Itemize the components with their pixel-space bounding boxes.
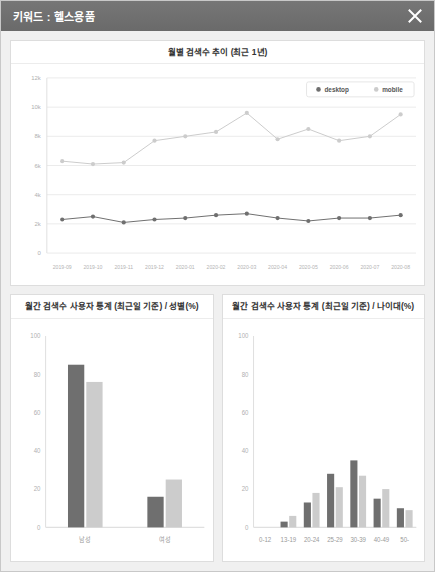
age-stats-y-tick: 60 <box>241 408 248 415</box>
legend-label-desktop[interactable]: desktop <box>324 86 348 94</box>
dashboard-content: 월별 검색수 추이 (최근 1년) 02k4k6k8k10k12k 2019-0… <box>1 31 434 571</box>
age-stats-bar-mobile[interactable] <box>358 475 365 527</box>
gender-plot-area: 020406080100 남성여성 <box>11 319 213 561</box>
age-stats-bar-desktop[interactable] <box>280 521 287 527</box>
monthly-trend-chart: 02k4k6k8k10k12k 2019-092019-102019-11201… <box>11 64 424 285</box>
trend-point-mobile[interactable] <box>91 162 95 166</box>
trend-point-desktop[interactable] <box>306 219 310 223</box>
trend-y-tick: 10k <box>31 105 41 111</box>
age-stats-bar-desktop[interactable] <box>350 460 357 527</box>
trend-y-tick: 0 <box>38 251 42 257</box>
gender-x-tick-labels: 남성여성 <box>79 536 170 544</box>
gender-stats-bar-desktop[interactable] <box>147 496 163 527</box>
gender-stats-bar-mobile[interactable] <box>86 382 102 527</box>
legend-label-mobile[interactable]: mobile <box>382 86 403 93</box>
trend-line-mobile <box>62 113 400 164</box>
window-title: 키워드 : 헬스용품 <box>13 8 404 24</box>
gender-bar-chart: 020406080100 남성여성 <box>11 319 213 561</box>
age-stats-bar-mobile[interactable] <box>405 510 412 527</box>
trend-x-tick: 2020-06 <box>330 264 349 270</box>
trend-x-tick: 2019-12 <box>145 264 164 270</box>
age-plot-area: 020406080100 0-1213-1920-2425-2930-3940-… <box>223 319 425 561</box>
trend-point-desktop[interactable] <box>91 215 95 219</box>
window-titlebar: 키워드 : 헬스용품 <box>1 1 434 31</box>
trend-point-desktop[interactable] <box>122 221 126 225</box>
age-stats-y-tick: 40 <box>241 447 248 454</box>
monthly-trend-plot-area: 02k4k6k8k10k12k 2019-092019-102019-11201… <box>11 64 424 285</box>
trend-point-desktop[interactable] <box>183 216 187 220</box>
trend-x-tick: 2020-03 <box>237 264 256 270</box>
age-stats-x-tick: 30-39 <box>350 536 366 543</box>
trend-point-mobile[interactable] <box>337 139 341 143</box>
age-stats-bar-desktop[interactable] <box>327 473 334 527</box>
age-stats-y-tick: 80 <box>241 370 248 377</box>
trend-point-mobile[interactable] <box>399 113 403 117</box>
age-stats-bar-mobile[interactable] <box>335 487 342 527</box>
age-stats-bar-desktop[interactable] <box>303 502 310 527</box>
trend-point-desktop[interactable] <box>214 213 218 217</box>
gender-stats-title: 월간 검색수 사용자 통계 (최근일 기준) / 성별(%) <box>11 295 213 318</box>
trend-point-desktop[interactable] <box>275 216 279 220</box>
gender-stats-y-tick: 80 <box>34 370 41 377</box>
trend-point-mobile[interactable] <box>152 139 156 143</box>
trend-x-tick: 2019-11 <box>114 264 133 270</box>
trend-point-desktop[interactable] <box>245 212 249 216</box>
gender-stats-card: 월간 검색수 사용자 통계 (최근일 기준) / 성별(%) 020406080… <box>10 294 214 562</box>
close-icon <box>408 9 422 23</box>
close-button[interactable] <box>404 5 426 27</box>
trend-x-tick: 2020-04 <box>268 264 287 270</box>
bottom-charts-row: 월간 검색수 사용자 통계 (최근일 기준) / 성별(%) 020406080… <box>10 294 425 562</box>
gender-stats-y-tick: 0 <box>37 523 41 530</box>
trend-point-desktop[interactable] <box>399 213 403 217</box>
trend-y-tick-labels: 02k4k6k8k10k12k <box>31 75 41 256</box>
trend-point-mobile[interactable] <box>122 161 126 165</box>
trend-point-mobile[interactable] <box>60 159 64 163</box>
age-stats-bar-desktop[interactable] <box>396 508 403 527</box>
trend-y-tick: 4k <box>35 192 41 198</box>
trend-point-mobile[interactable] <box>275 137 279 141</box>
trend-gridlines <box>47 78 416 253</box>
gender-stats-y-tick: 100 <box>30 332 41 339</box>
gender-stats-bar-desktop[interactable] <box>68 364 84 527</box>
trend-point-mobile[interactable] <box>183 135 187 139</box>
trend-x-tick: 2019-10 <box>84 264 103 270</box>
age-stats-x-tick: 50- <box>400 536 409 543</box>
trend-point-mobile[interactable] <box>368 135 372 139</box>
trend-y-tick: 2k <box>35 221 41 227</box>
gender-stats-y-tick: 20 <box>34 485 41 492</box>
age-stats-y-tick: 20 <box>241 485 248 492</box>
age-stats-bar-desktop[interactable] <box>373 498 380 527</box>
trend-x-tick: 2020-05 <box>299 264 318 270</box>
trend-x-tick: 2020-07 <box>360 264 379 270</box>
trend-point-mobile[interactable] <box>306 127 310 131</box>
monthly-trend-card: 월별 검색수 추이 (최근 1년) 02k4k6k8k10k12k 2019-0… <box>10 40 425 286</box>
age-stats-bar-mobile[interactable] <box>289 515 296 526</box>
age-stats-y-tick: 100 <box>238 332 249 339</box>
age-stats-title: 월간 검색수 사용자 통계 (최근일 기준) / 나이대(%) <box>223 295 425 318</box>
gender-stats-x-tick: 여성 <box>159 536 171 544</box>
trend-legend[interactable]: desktopmobile <box>307 82 414 97</box>
trend-point-mobile[interactable] <box>245 111 249 115</box>
trend-point-mobile[interactable] <box>214 130 218 134</box>
trend-point-desktop[interactable] <box>60 218 64 222</box>
trend-x-tick: 2020-08 <box>391 264 410 270</box>
trend-line-desktop <box>62 214 400 223</box>
gender-stats-bar-mobile[interactable] <box>166 479 182 527</box>
trend-x-tick: 2020-01 <box>176 264 195 270</box>
legend-marker-desktop <box>316 87 321 92</box>
trend-point-desktop[interactable] <box>152 218 156 222</box>
age-x-tick-labels: 0-1213-1920-2425-2930-3940-4950- <box>259 536 409 543</box>
age-stats-x-tick: 13-19 <box>280 536 296 543</box>
age-stats-x-tick: 0-12 <box>259 536 272 543</box>
trend-point-desktop[interactable] <box>368 216 372 220</box>
age-stats-bar-mobile[interactable] <box>382 489 389 527</box>
age-stats-bar-mobile[interactable] <box>312 493 319 527</box>
trend-x-tick: 2020-02 <box>207 264 226 270</box>
age-stats-x-tick: 20-24 <box>303 536 319 543</box>
trend-point-desktop[interactable] <box>337 216 341 220</box>
legend-marker-mobile <box>374 87 379 92</box>
monthly-trend-title: 월별 검색수 추이 (최근 1년) <box>11 41 424 64</box>
age-bars-group <box>280 460 412 527</box>
trend-y-tick: 8k <box>35 134 41 140</box>
trend-x-tick: 2019-09 <box>53 264 72 270</box>
